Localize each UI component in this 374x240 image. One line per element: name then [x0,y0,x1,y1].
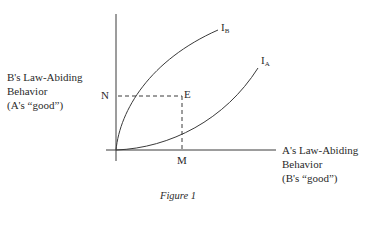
y-axis-label-line2: Behavior [7,84,83,98]
x-axis-label-line3: (B's “good”) [282,171,358,185]
curve-label-ib: IB [221,21,229,35]
y-axis-label: B's Law-Abiding Behavior (A's “good”) [7,70,83,112]
curve-label-ia-sub: A [265,60,270,68]
x-axis-label: A's Law-Abiding Behavior (B's “good”) [282,143,358,185]
point-label-e: E [184,88,191,100]
x-axis-label-line2: Behavior [282,157,358,171]
curve-ia [116,68,258,150]
point-label-m: M [177,154,187,166]
curve-label-ia: IA [261,54,270,68]
curve-ib [116,30,218,150]
x-axis-label-line1: A's Law-Abiding [282,143,358,157]
figure-caption: Figure 1 [160,190,196,201]
y-axis-label-line1: B's Law-Abiding [7,70,83,84]
curve-label-ib-sub: B [225,27,230,35]
y-axis-label-line3: (A's “good”) [7,98,83,112]
point-label-n: N [101,89,109,101]
